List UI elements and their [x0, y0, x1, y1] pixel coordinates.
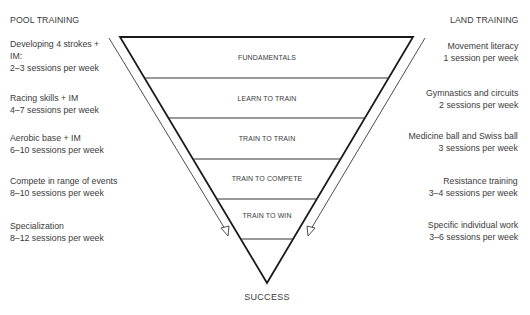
stage-train-to-compete: TRAIN TO COMPETE: [232, 175, 303, 182]
training-funnel-diagram: FUNDAMENTALS LEARN TO TRAIN TRAIN TO TRA…: [0, 0, 530, 315]
stage-fundamentals: FUNDAMENTALS: [238, 54, 296, 61]
outcome-success-label: SUCCESS: [0, 292, 530, 302]
right-arrowhead-icon: [307, 226, 315, 236]
stage-learn-to-train: LEARN TO TRAIN: [238, 95, 297, 102]
stage-train-to-train: TRAIN TO TRAIN: [239, 135, 296, 142]
funnel-triangle: [120, 37, 413, 283]
stage-train-to-win: TRAIN TO WIN: [242, 212, 291, 219]
left-arrowhead-icon: [221, 226, 229, 236]
